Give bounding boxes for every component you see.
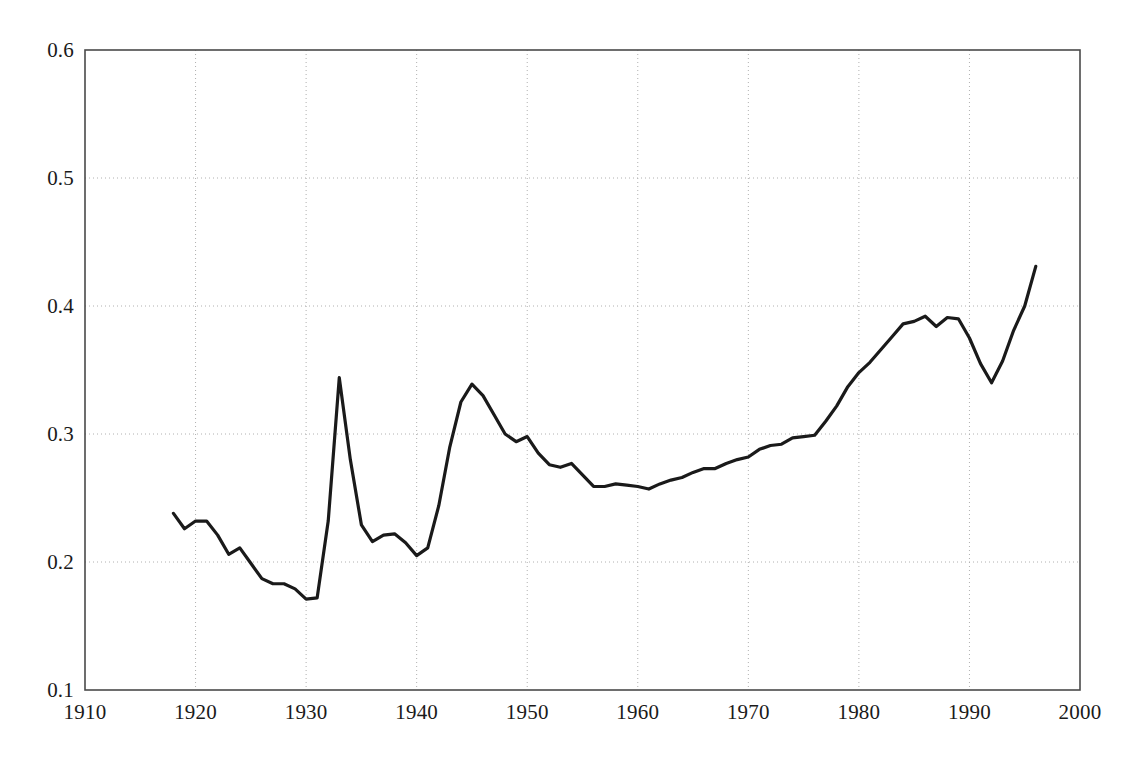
x-axis-tick-label: 1980 — [837, 700, 880, 725]
y-axis-tick-label: 0.2 — [8, 550, 74, 575]
y-axis-tick-label: 0.5 — [8, 166, 74, 191]
y-axis-tick-label: 0.4 — [8, 294, 74, 319]
plot-frame-rect — [85, 50, 1080, 690]
data-line-1 — [173, 266, 1035, 599]
y-axis-tick-label: 0.3 — [8, 422, 74, 447]
x-axis-tick-label: 1970 — [727, 700, 770, 725]
x-axis-tick-label: 1990 — [948, 700, 991, 725]
y-axis-tick-label: 0.1 — [8, 678, 74, 703]
x-axis-tick-label: 1960 — [616, 700, 659, 725]
x-axis-tick-label: 1940 — [395, 700, 438, 725]
line-chart-plot — [0, 0, 1140, 772]
chart-container: 0.10.20.30.40.50.6 191019201930194019501… — [0, 0, 1140, 772]
x-axis-tick-label: 1930 — [285, 700, 328, 725]
data-series-group — [173, 266, 1035, 599]
plot-frame — [85, 50, 1080, 690]
y-axis-tick-label: 0.6 — [8, 38, 74, 63]
gridlines-group — [85, 50, 1080, 690]
x-axis-tick-label: 2000 — [1059, 700, 1102, 725]
x-axis-tick-label: 1950 — [506, 700, 549, 725]
x-axis-tick-label: 1920 — [174, 700, 217, 725]
x-axis-tick-label: 1910 — [64, 700, 107, 725]
